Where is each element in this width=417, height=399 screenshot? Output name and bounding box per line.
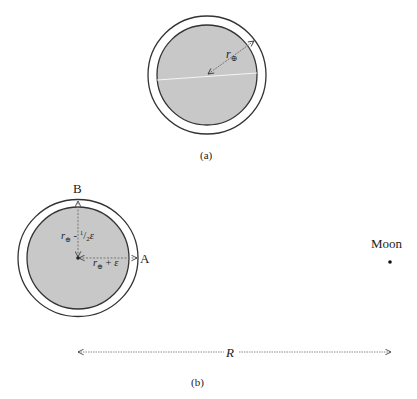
tidal-bulge-diagram: r⊕ (a) B A r⊕ - 1/2ε r⊕ + ε Moon R (b) [0, 0, 417, 399]
moon-dot [388, 260, 392, 264]
earth-body [157, 25, 257, 125]
panel-a: r⊕ (a) [148, 16, 266, 162]
point-B-label: B [73, 181, 82, 196]
moon-label: Moon [371, 236, 403, 251]
caption-a: (a) [200, 149, 213, 162]
panel-b: B A r⊕ - 1/2ε r⊕ + ε Moon R (b) [18, 181, 403, 389]
caption-b: (b) [191, 376, 204, 389]
point-A-label: A [140, 251, 150, 266]
distance-label: R [225, 345, 234, 360]
